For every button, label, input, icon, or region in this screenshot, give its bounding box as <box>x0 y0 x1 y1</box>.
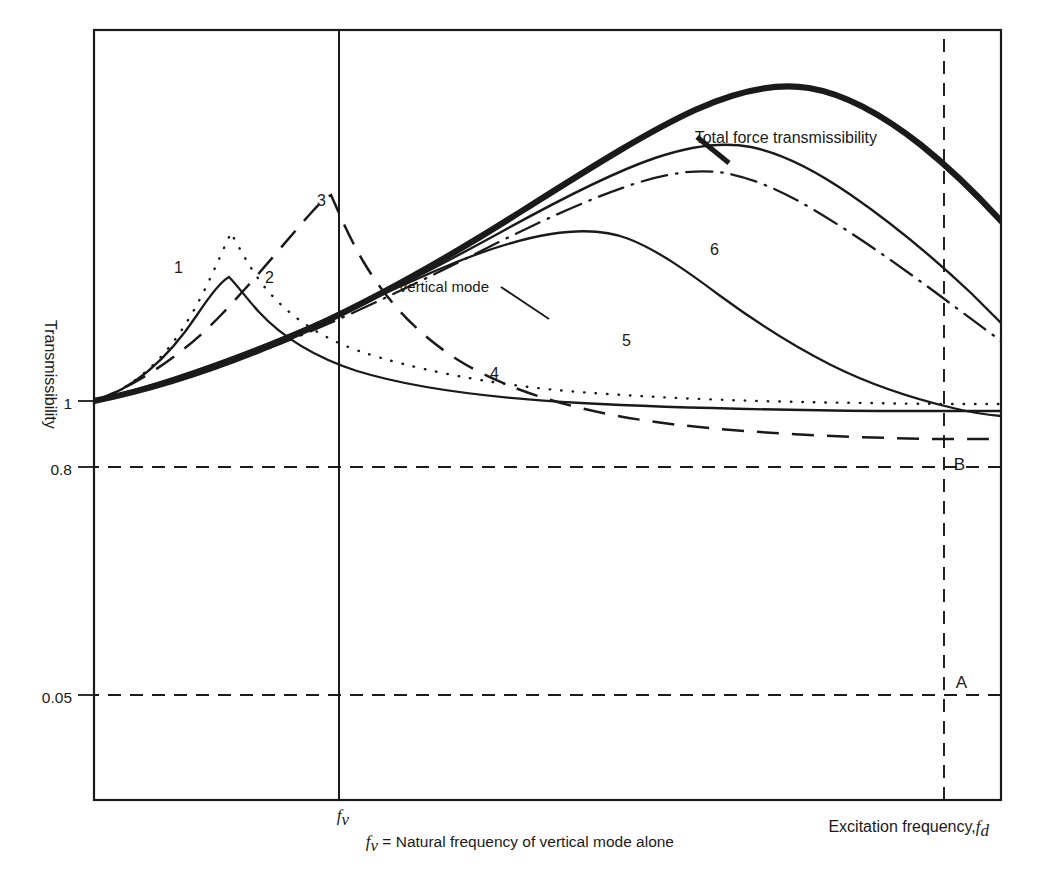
chart-stage: fv = Natural frequency of vertical mode … <box>0 0 1049 885</box>
curve-label-6: 6 <box>710 241 719 259</box>
curve-label-5: 5 <box>622 332 631 350</box>
fv-definition-note: fv = Natural frequency of vertical mode … <box>366 833 674 856</box>
fv-note-subscript: v <box>370 836 378 855</box>
y-tick-label-0-8: 0.8 <box>50 461 72 478</box>
rotated-figure-container: fv = Natural frequency of vertical mode … <box>0 0 1049 885</box>
y-tick-label-1: 1 <box>63 395 72 412</box>
curve-label-4: 4 <box>490 365 499 383</box>
curve-label-1: 1 <box>174 259 183 277</box>
y-axis-title: Transmissibility <box>41 320 59 429</box>
x-axis-title: Excitation frequency,fd <box>828 818 989 841</box>
vertical-mode-leader-line <box>501 287 549 319</box>
curve-series-4 <box>94 231 1001 416</box>
fv-note-text: Natural frequency of vertical mode alone <box>396 833 674 850</box>
marker-b-label: B <box>954 456 965 475</box>
curve-label-2: 2 <box>265 269 274 287</box>
curve-label-3: 3 <box>317 192 326 210</box>
y-tick-label-0-05: 0.05 <box>42 689 72 706</box>
fv-line-marker: fv <box>337 807 349 830</box>
vertical-mode-annotation: Vertical mode <box>398 279 489 296</box>
fv-note-equals: = <box>382 833 391 850</box>
fv-marker-subscript: v <box>341 810 349 829</box>
transmissibility-plot <box>0 0 1049 885</box>
curve-series-2 <box>94 277 1001 411</box>
x-axis-title-subscript: d <box>981 821 990 840</box>
total-force-transmissibility-annotation: Total force transmissibility <box>695 129 877 147</box>
x-axis-title-text: Excitation frequency, <box>828 818 975 835</box>
marker-a-label: A <box>956 674 967 693</box>
